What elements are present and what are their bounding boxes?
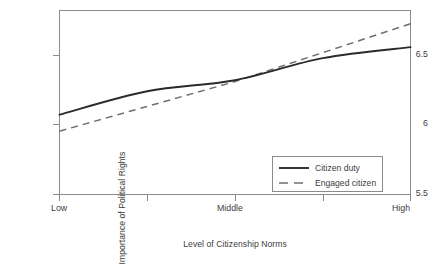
y-axis-ticks — [53, 56, 59, 195]
y-tick-label-5-5: 5.5 — [382, 188, 428, 198]
y-tick-label-6: 6 — [382, 118, 428, 128]
x-tick-label-low: Low — [51, 203, 67, 213]
legend-swatch-solid-icon — [279, 162, 309, 174]
legend-label-citizen-duty: Citizen duty — [315, 162, 360, 174]
chart-figure: Importance of Political Rights 6.5 6 5.5… — [0, 0, 428, 265]
x-axis-title: Level of Citizenship Norms — [59, 239, 411, 249]
y-tick-label-6-5: 6.5 — [382, 49, 428, 59]
legend-label-engaged-citizen: Engaged citizen — [315, 177, 376, 189]
legend-swatch-dashed-icon — [279, 177, 309, 189]
x-tick-label-high: High — [392, 203, 410, 213]
legend-item-engaged-citizen: Engaged citizen — [273, 175, 382, 190]
x-tick-label-middle: Middle — [217, 203, 243, 213]
legend-item-citizen-duty: Citizen duty — [273, 160, 382, 175]
chart-canvas — [0, 0, 428, 265]
series-line-engaged-citizen — [60, 24, 411, 131]
series-line-citizen-duty — [60, 47, 411, 114]
chart-legend: Citizen duty Engaged citizen — [272, 156, 383, 192]
x-axis-ticks — [60, 195, 411, 201]
